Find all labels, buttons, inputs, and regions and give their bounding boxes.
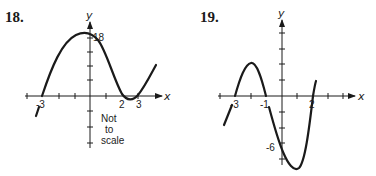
- x-tick-label: 3: [136, 99, 142, 110]
- note-line: to: [105, 124, 114, 135]
- graph-19-curve: [224, 63, 316, 169]
- note-line: scale: [101, 135, 125, 146]
- y-axis-label: y: [277, 7, 285, 20]
- x-axis-label: x: [163, 90, 171, 103]
- x-tick-label: -1: [260, 99, 269, 110]
- x-tick-label: 2: [119, 99, 125, 110]
- y-intercept-label: -6: [266, 142, 275, 153]
- note-line: Not: [101, 113, 117, 124]
- graphs-canvas: y x -3 2 3 18 Not to scale: [0, 0, 376, 176]
- x-axis-label: x: [357, 90, 365, 103]
- graph-18: y x -3 2 3 18 Not to scale: [25, 9, 171, 148]
- graph-19-axes: [218, 20, 355, 165]
- y-axis-label: y: [85, 9, 93, 22]
- graph-19: y x -3 -1 2 -6: [218, 7, 365, 169]
